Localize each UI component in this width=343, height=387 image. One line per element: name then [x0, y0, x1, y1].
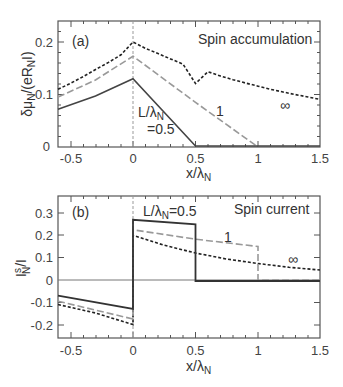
panel-b-xtick-neg0.5: -0.5 — [60, 343, 82, 358]
panel-a-ytick-0: 0 — [43, 139, 50, 154]
curve-a-one-label: 1 — [216, 103, 224, 119]
panel-a-title: Spin accumulation — [198, 31, 312, 47]
panel-b: 0.3 0.2 0.1 0 -0.1 -0.2 -0.5 0 0.5 1 1.5… — [12, 196, 329, 376]
curve-a-infinity-label: ∞ — [280, 97, 290, 113]
panel-a-ytick-0.1: 0.1 — [35, 87, 53, 102]
curve-b-half — [58, 220, 320, 309]
curve-b-one — [58, 230, 320, 319]
panel-b-yticks — [58, 213, 320, 325]
panel-a: 0 0.1 0.2 -0.5 0 0.5 1 1.5 x/λN δμN/(eRN… — [19, 21, 329, 183]
panel-a-ylabel: δμN/(eRNI) — [19, 51, 37, 116]
curve-a-half-value: =0.5 — [147, 121, 175, 137]
panel-a-xtick-1: 1 — [254, 151, 261, 166]
panel-b-xlabel: x/λN — [186, 358, 211, 376]
panel-b-ytick-neg0.1: -0.1 — [31, 295, 53, 310]
panel-a-tag: (a) — [72, 33, 89, 49]
panel-a-xlabel: x/λN — [186, 165, 211, 183]
panel-a-xtick-1.5: 1.5 — [311, 151, 329, 166]
panel-a-xtick-neg0.5: -0.5 — [60, 151, 82, 166]
panel-b-xtick-0.5: 0.5 — [186, 343, 204, 358]
panel-a-xtick-0.5: 0.5 — [186, 151, 204, 166]
panel-b-ytick-0.1: 0.1 — [35, 250, 53, 265]
panel-b-ylabel: IsN/I — [12, 259, 32, 277]
panel-b-tag: (b) — [72, 204, 89, 220]
panel-b-xtick-0: 0 — [129, 343, 136, 358]
panel-b-title: Spin current — [234, 201, 310, 217]
panel-b-ytick-neg0.2: -0.2 — [31, 318, 53, 333]
curve-b-infinity-label: ∞ — [288, 251, 298, 267]
curve-a-infinity — [58, 42, 320, 99]
panel-a-ytick-0.2: 0.2 — [35, 35, 53, 50]
curve-b-half-label: L/λN=0.5 — [143, 203, 197, 221]
panel-b-xtick-1: 1 — [254, 343, 261, 358]
panel-b-xtick-1.5: 1.5 — [311, 343, 329, 358]
panel-a-xtick-0: 0 — [129, 151, 136, 166]
panel-a-yticks — [58, 32, 320, 137]
panel-b-ytick-0.3: 0.3 — [35, 206, 53, 221]
spin-figure: 0 0.1 0.2 -0.5 0 0.5 1 1.5 x/λN δμN/(eRN… — [0, 0, 343, 387]
curve-b-one-label: 1 — [224, 229, 232, 245]
panel-b-ytick-0: 0 — [46, 273, 53, 288]
panel-b-ytick-0.2: 0.2 — [35, 228, 53, 243]
